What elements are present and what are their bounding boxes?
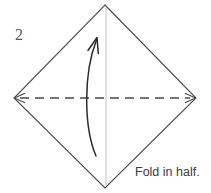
paper-outline-icon [14,5,196,188]
instruction-caption: Fold in half. [135,166,200,179]
step-number-label: 2 [15,27,23,43]
origami-step-figure: 2 Fold in half. [0,0,211,193]
